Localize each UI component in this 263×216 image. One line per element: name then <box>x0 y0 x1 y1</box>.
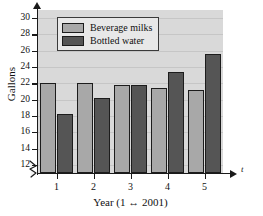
legend-swatch <box>62 36 84 46</box>
y-axis-tick <box>32 18 38 19</box>
x-axis-tick-label: 4 <box>158 181 178 192</box>
y-axis-tick-label: 14 <box>21 143 31 153</box>
legend-label: Bottled water <box>90 35 144 46</box>
bar <box>94 98 110 173</box>
bar <box>114 85 130 173</box>
y-axis-arrow-icon <box>33 2 41 9</box>
y-axis-tick <box>32 165 38 166</box>
y-axis-tick-label: 16 <box>21 126 31 136</box>
x-axis-tick <box>131 174 132 179</box>
x-axis-tick-label: 5 <box>195 181 215 192</box>
y-axis-tick <box>32 100 38 101</box>
y-axis-tick-label: 28 <box>21 28 31 38</box>
x-axis-line <box>37 173 231 174</box>
y-axis-tick <box>32 116 38 117</box>
bar <box>188 90 204 173</box>
gridline <box>38 67 223 68</box>
y-axis-tick <box>32 67 38 68</box>
y-axis-tick-label: 24 <box>21 61 31 71</box>
x-axis-tick-label: 3 <box>121 181 141 192</box>
bar <box>205 54 221 173</box>
y-axis-tick <box>32 51 38 52</box>
y-axis-tick-label: 20 <box>21 94 31 104</box>
legend-item: Beverage milks <box>62 21 152 34</box>
legend-swatch <box>62 23 84 33</box>
bar <box>151 88 167 173</box>
bar <box>131 85 147 173</box>
x-axis-variable-label: t <box>241 164 244 174</box>
y-axis-tick-label: 12 <box>21 159 31 169</box>
bar-chart-figure: t Gallons Year (1 ↔ 2001) Beverage milks… <box>0 0 263 216</box>
x-axis-tick <box>205 174 206 179</box>
chart-legend: Beverage milksBottled water <box>57 17 159 51</box>
bar <box>57 114 73 173</box>
legend-item: Bottled water <box>62 34 152 47</box>
bar <box>77 83 93 173</box>
y-axis-tick-label: 26 <box>21 45 31 55</box>
bar <box>168 72 184 173</box>
y-axis-tick-label: 18 <box>21 110 31 120</box>
y-axis-tick-label: 22 <box>21 77 31 87</box>
y-axis-tick <box>32 149 38 150</box>
x-axis-tick <box>94 174 95 179</box>
bar <box>40 83 56 173</box>
y-axis-tick <box>32 132 38 133</box>
y-axis-line <box>37 8 38 175</box>
x-axis-tick-label: 2 <box>84 181 104 192</box>
y-axis-tick-label: 30 <box>21 12 31 22</box>
x-axis-tick <box>57 174 58 179</box>
x-axis-tick-label: 1 <box>47 181 67 192</box>
x-axis-arrow-icon <box>230 170 237 178</box>
x-axis-tick <box>168 174 169 179</box>
x-axis-title: Year (1 ↔ 2001) <box>38 196 223 208</box>
y-axis-title: Gallons <box>5 49 17 119</box>
y-axis-tick <box>32 83 38 84</box>
y-axis-tick <box>32 34 38 35</box>
legend-label: Beverage milks <box>90 22 152 33</box>
